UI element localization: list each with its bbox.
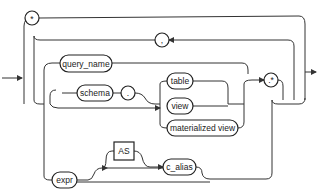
comma-loop-left [34, 36, 155, 40]
svg-text:materialized view: materialized view [170, 123, 236, 133]
svg-text:,: , [161, 35, 163, 45]
expr-out [77, 168, 107, 180]
svg-text:.*: .* [268, 75, 274, 85]
table-node: table [167, 73, 193, 89]
comma-node: , [155, 33, 169, 47]
query-name-out [112, 63, 248, 74]
comma-loop-right [169, 40, 294, 100]
svg-text:c_alias: c_alias [166, 162, 192, 172]
svg-text:expr: expr [56, 175, 73, 185]
loop-left-rail [34, 36, 44, 104]
schema-node: schema [77, 85, 113, 101]
mview-branch [160, 108, 167, 128]
as-node: AS [114, 142, 134, 160]
query-name-node: query_name [60, 55, 112, 72]
right-merge [272, 98, 305, 104]
as-out [134, 151, 163, 167]
star-branch-line [24, 18, 32, 78]
svg-text:.: . [127, 88, 129, 98]
expr-branch-line [44, 104, 52, 180]
dot-star-node: .* [264, 73, 278, 87]
svg-text:table: table [171, 76, 190, 86]
dot-node: . [121, 86, 135, 100]
star-node: * [25, 11, 39, 25]
c-alias-out [196, 100, 272, 179]
table-branch [160, 81, 167, 108]
schema-bypass [50, 90, 56, 104]
materialized-view-node: materialized view [167, 120, 238, 136]
expr-node: expr [52, 172, 77, 188]
table-out [193, 81, 228, 104]
svg-text:schema: schema [80, 88, 110, 98]
view-node: view [167, 98, 193, 114]
dot-out [135, 93, 160, 104]
railroad-diagram: * , query_name schema . table view mater… [0, 0, 318, 191]
as-in [102, 151, 114, 168]
schema-skip [50, 104, 160, 108]
svg-text:view: view [171, 101, 189, 111]
dot-star-out [278, 80, 283, 100]
svg-text:AS: AS [118, 146, 130, 156]
c-alias-node: c_alias [163, 159, 196, 175]
query-name-branch [44, 63, 60, 104]
svg-text:query_name: query_name [62, 59, 110, 69]
